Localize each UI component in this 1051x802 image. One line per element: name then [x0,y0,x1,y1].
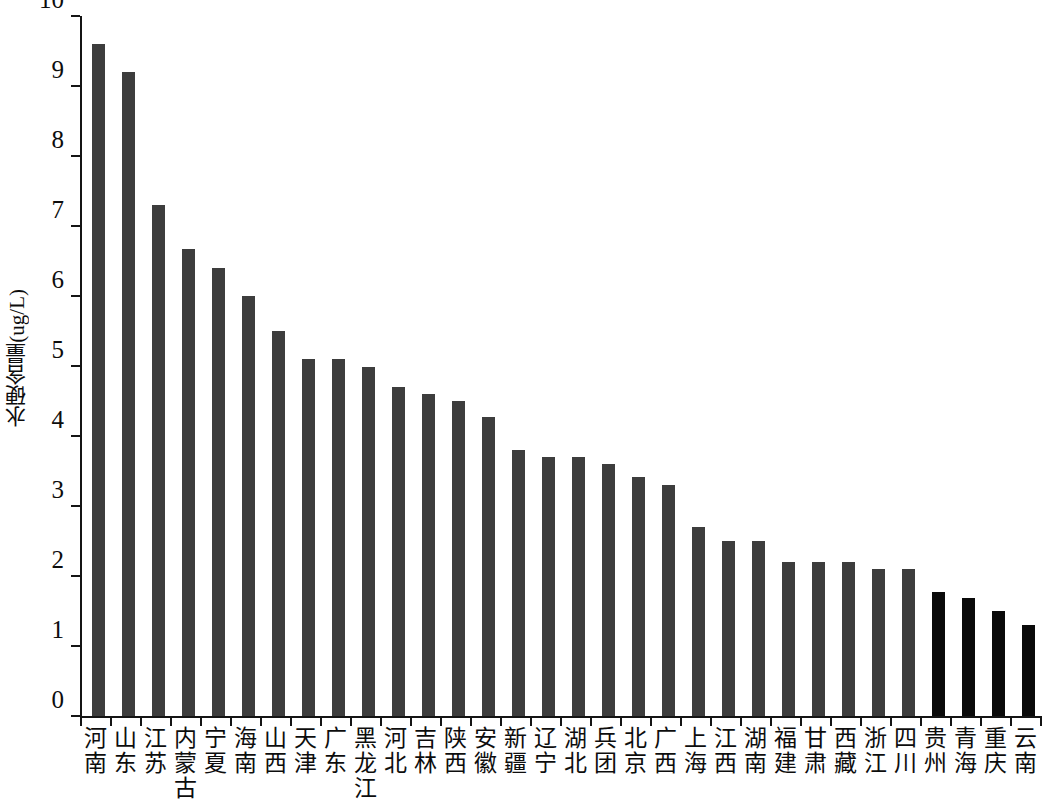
y-axis-tick [71,15,80,17]
x-axis-tick-label: 兵团 [590,726,620,776]
y-axis-tick [71,505,80,507]
bar [962,598,975,716]
x-axis-tick [380,716,382,726]
bar [512,450,525,716]
x-axis-tick [320,716,322,726]
x-axis-tick-label: 湖北 [560,726,590,776]
x-axis-tick [560,716,562,726]
bar [692,527,705,716]
y-axis-tick-label: 3 [18,477,64,502]
bar-chart: 水硬含量(ug/L) 109876543210 河南山东江苏内蒙古宁夏海南山西天… [0,0,1051,802]
x-axis-tick [1040,716,1042,726]
x-axis-tick [230,716,232,726]
x-axis-tick-label: 辽宁 [530,726,560,776]
y-axis-tick [71,715,80,717]
bar [542,457,555,716]
bar [842,562,855,716]
x-axis-tick-label: 浙江 [860,726,890,776]
x-axis-tick [920,716,922,726]
y-axis-tick-label: 7 [18,197,64,222]
x-axis-tick-label: 四川 [890,726,920,776]
x-axis-tick [500,716,502,726]
x-axis-tick-label: 安徽 [470,726,500,776]
bar [722,541,735,716]
x-axis-tick [530,716,532,726]
y-axis-tick [71,225,80,227]
y-axis-tick-label: 9 [18,57,64,82]
x-axis-tick-label: 湖南 [740,726,770,776]
x-axis-tick [440,716,442,726]
bar [602,464,615,716]
x-axis-tick-label: 云南 [1010,726,1040,776]
x-axis-tick [710,716,712,726]
y-axis-line [80,16,82,716]
x-axis-tick-label: 陕西 [440,726,470,776]
bar [782,562,795,716]
bar [392,387,405,716]
y-axis-tick [71,155,80,157]
bar [482,417,495,716]
x-axis-tick-label: 山东 [110,726,140,776]
x-axis-tick [410,716,412,726]
bar [272,331,285,716]
x-axis-tick [860,716,862,726]
x-axis-tick [680,716,682,726]
x-axis-tick [200,716,202,726]
x-axis-tick [110,716,112,726]
x-axis-tick-label: 内蒙古 [170,726,200,801]
x-axis-tick [350,716,352,726]
x-axis-tick-label: 甘肃 [800,726,830,776]
bar [242,296,255,716]
x-axis-tick-label: 贵州 [920,726,950,776]
bar [302,359,315,716]
bar [812,562,825,716]
x-axis-tick [80,716,82,726]
x-axis-tick-label: 海南 [230,726,260,776]
x-axis-tick [950,716,952,726]
plot-area [80,16,1040,716]
y-axis-tick-labels: 109876543210 [18,0,64,700]
x-axis-tick [590,716,592,726]
x-axis-tick-label: 河北 [380,726,410,776]
y-axis-tick-label: 0 [18,687,64,712]
bar [212,268,225,716]
x-axis-tick-label: 江苏 [140,726,170,776]
x-axis-tick [650,716,652,726]
x-axis-tick [770,716,772,726]
x-axis-tick [1010,716,1012,726]
bar [872,569,885,716]
bar [92,44,105,716]
x-axis-tick-labels: 河南山东江苏内蒙古宁夏海南山西天津广东黑龙江河北吉林陕西安徽新疆辽宁湖北兵团北京… [80,726,1040,802]
bar [152,205,165,716]
x-axis-tick-label: 福建 [770,726,800,776]
x-axis-tick [140,716,142,726]
bar [182,249,195,716]
x-axis-tick-label: 宁夏 [200,726,230,776]
x-axis-tick [740,716,742,726]
y-axis-tick-label: 4 [18,407,64,432]
bar [422,394,435,716]
x-axis-tick [800,716,802,726]
x-axis-tick-label: 西藏 [830,726,860,776]
x-axis-tick-label: 吉林 [410,726,440,776]
x-axis-tick [470,716,472,726]
bar [332,359,345,716]
y-axis-tick-label: 8 [18,127,64,152]
y-axis-tick-label: 2 [18,547,64,572]
y-axis-tick [71,85,80,87]
x-axis-tick-label: 河南 [80,726,110,776]
x-axis-tick-label: 天津 [290,726,320,776]
bar [452,401,465,716]
y-axis-tick-label: 5 [18,337,64,362]
x-axis-tick-label: 广东 [320,726,350,776]
x-axis-tick-label: 上海 [680,726,710,776]
bar [122,72,135,716]
x-axis-tick-label: 新疆 [500,726,530,776]
x-axis-tick-label: 重庆 [980,726,1010,776]
x-axis-tick-label: 山西 [260,726,290,776]
bar [992,611,1005,716]
x-axis-tick [890,716,892,726]
y-axis-tick [71,435,80,437]
x-axis-tick [830,716,832,726]
y-axis-tick [71,575,80,577]
